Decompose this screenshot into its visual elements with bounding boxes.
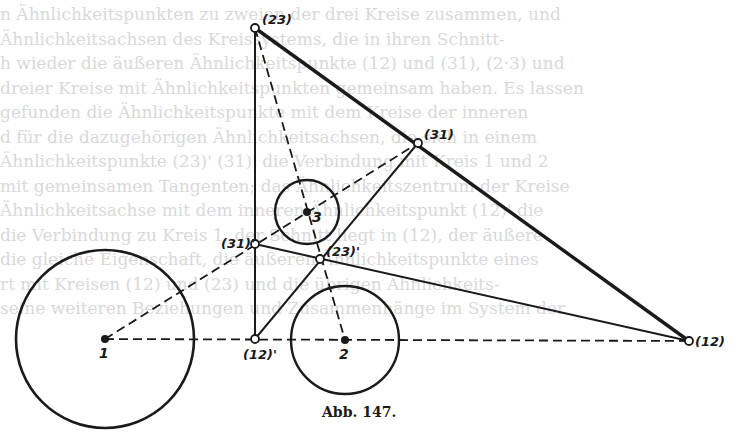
center-dot-2 <box>341 336 349 344</box>
label-circle-2: 2 <box>339 346 349 362</box>
similarity-axes-diagram: (23) (31) (31)' (23)' (12)' (12) 1 2 3 <box>0 0 732 435</box>
center-dot-3 <box>303 208 311 216</box>
label-12-prime: (12)' <box>243 347 277 362</box>
dashed-line-1-12 <box>105 339 689 341</box>
point-23-prime <box>316 255 324 263</box>
axis-31-12p <box>255 143 418 339</box>
label-23: (23) <box>262 12 292 27</box>
point-23 <box>251 24 259 32</box>
point-12 <box>685 337 693 345</box>
outer-similarity-axis <box>255 28 689 341</box>
label-12: (12) <box>695 334 725 349</box>
point-31 <box>414 139 422 147</box>
label-31-prime: (31)' <box>221 236 255 251</box>
figure-caption: Abb. 147. <box>322 404 396 420</box>
label-circle-3: 3 <box>312 209 322 225</box>
label-31: (31) <box>424 127 454 142</box>
dashed-line-1-31 <box>105 143 418 339</box>
label-23-prime: (23)' <box>326 244 360 259</box>
dashed-line-23-2 <box>255 28 345 340</box>
label-circle-1: 1 <box>99 345 109 361</box>
center-dot-1 <box>101 335 109 343</box>
point-12-prime <box>251 335 259 343</box>
